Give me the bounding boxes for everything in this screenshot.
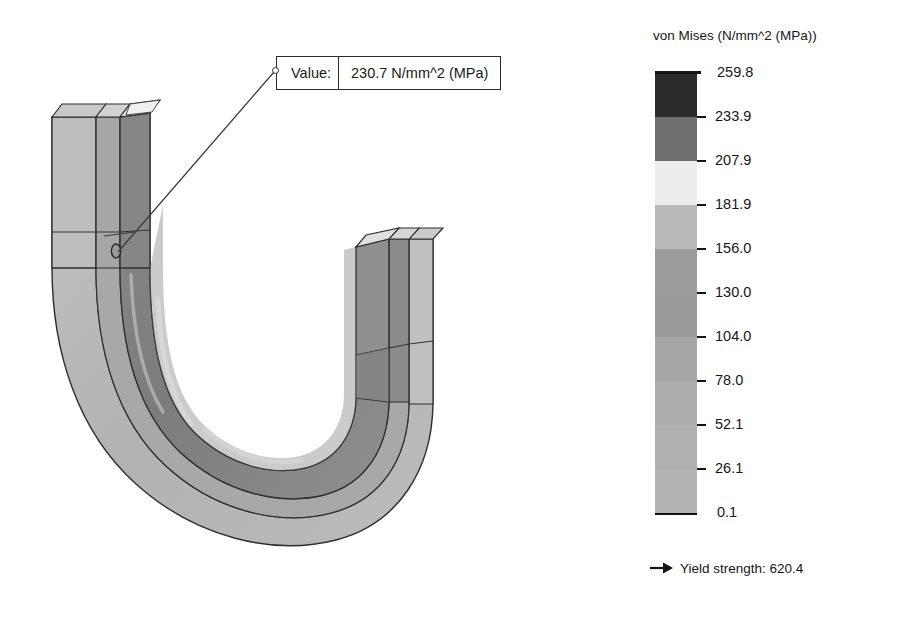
callout-value: 230.7 N/mm^2 (MPa): [339, 57, 500, 89]
legend-top-cap: [655, 71, 701, 74]
legend-tick-label: 156.0: [715, 240, 751, 256]
legend-tick-mark: [697, 204, 706, 206]
legend-tick-label: 233.9: [715, 108, 751, 124]
legend-band-8: [655, 425, 697, 469]
legend-title: von Mises (N/mm^2 (MPa)): [653, 28, 905, 43]
legend-body: 259.8233.9207.9181.9156.0130.0104.078.05…: [650, 73, 905, 523]
legend-tick-mark: [697, 160, 706, 162]
legend-tick-mark: [697, 116, 706, 118]
legend-band-9: [655, 469, 697, 513]
callout-label: Value:: [277, 57, 339, 89]
callout-anchor-circle-icon: [272, 67, 279, 74]
legend-tick-label: 52.1: [715, 416, 743, 432]
model-viewport[interactable]: [0, 0, 640, 621]
legend-tick-mark: [697, 380, 706, 382]
stress-contour-model: [0, 0, 640, 621]
legend-tick-label: 78.0: [715, 372, 743, 388]
legend-tick-mark: [697, 468, 706, 470]
legend-tick-label: 259.8: [717, 64, 753, 80]
legend-tick-label: 181.9: [715, 196, 751, 212]
legend-tick-mark: [697, 248, 706, 250]
yield-strength-row: Yield strength: 620.4: [650, 558, 803, 578]
legend-band-1: [655, 117, 697, 161]
legend-tick-label: 26.1: [715, 460, 743, 476]
legend-band-3: [655, 205, 697, 249]
legend-band-0: [655, 73, 697, 117]
legend-band-4: [655, 249, 697, 293]
legend-tick-label: 0.1: [717, 504, 737, 520]
legend-tick-label: 207.9: [715, 152, 751, 168]
right-arm-channel: [356, 228, 443, 404]
legend-tick-mark: [697, 424, 706, 426]
legend-tick-mark: [697, 336, 706, 338]
legend-tick-mark: [697, 292, 706, 294]
value-callout[interactable]: Value: 230.7 N/mm^2 (MPa): [276, 56, 501, 90]
right-arrow-icon: [650, 561, 674, 575]
legend-tick-label: 130.0: [715, 284, 751, 300]
legend-tick-label: 104.0: [715, 328, 751, 344]
legend-band-5: [655, 293, 697, 337]
legend-band-7: [655, 381, 697, 425]
legend-band-2: [655, 161, 697, 205]
left-arm-channel: [52, 100, 160, 268]
stress-legend: von Mises (N/mm^2 (MPa)) 259.8233.9207.9…: [650, 28, 905, 523]
yield-strength-label: Yield strength: 620.4: [680, 561, 803, 576]
legend-ticks: 259.8233.9207.9181.9156.0130.0104.078.05…: [697, 73, 897, 513]
legend-colorbar[interactable]: [655, 73, 697, 515]
legend-band-6: [655, 337, 697, 381]
